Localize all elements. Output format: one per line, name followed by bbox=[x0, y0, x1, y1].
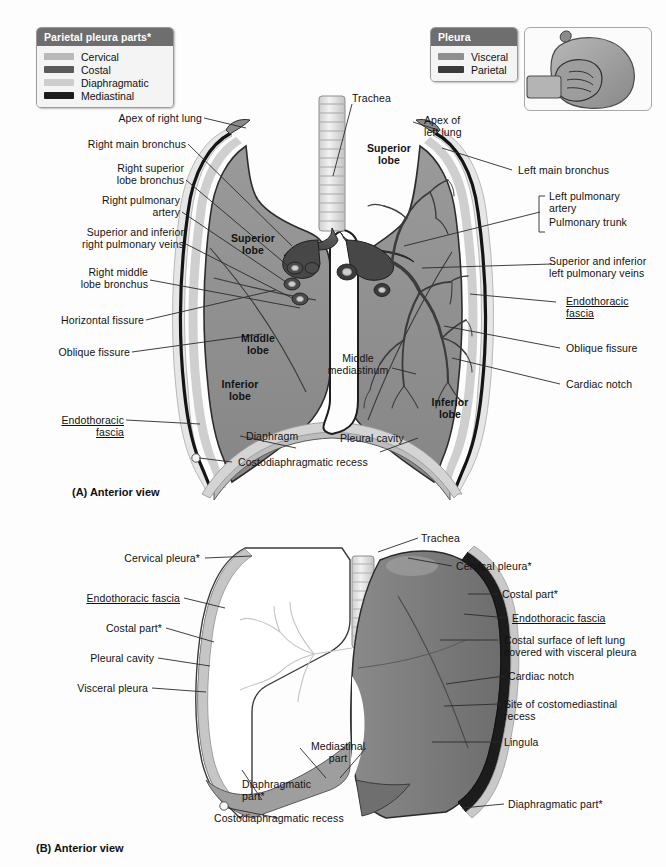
label-inferior-lobe-left-lung: Inferior lobe bbox=[418, 396, 482, 420]
label-lingula: Lingula bbox=[504, 736, 539, 748]
legend-swatch-visceral bbox=[438, 53, 464, 60]
inset-fist-balloon bbox=[524, 27, 652, 111]
label-diaphragmatic-part-right: Diaphragmatic part* bbox=[508, 798, 603, 810]
figure-root: Parietal pleura parts* Cervical Costal D… bbox=[0, 0, 666, 867]
label-endothoracic-fascia-b-left: Endothoracic fascia bbox=[56, 592, 180, 604]
legend-item: Costal bbox=[44, 63, 166, 76]
label-horizontal-fissure: Horizontal fissure bbox=[34, 314, 144, 326]
fist-balloon-illustration bbox=[525, 28, 651, 110]
legend-item: Parietal bbox=[438, 63, 510, 76]
legend-label: Costal bbox=[81, 64, 111, 76]
legend-label: Visceral bbox=[471, 51, 508, 63]
legend-swatch-parietal bbox=[438, 66, 464, 73]
label-costal-surface-left-lung: Costal surface of left lung covered with… bbox=[504, 634, 664, 658]
label-costodiaphragmatic-recess: Costodiaphragmatic recess bbox=[238, 456, 368, 468]
label-left-pulmonary-veins: Superior and inferior left pulmonary vei… bbox=[549, 255, 665, 279]
label-inferior-lobe-right-lung: Inferior lobe bbox=[208, 378, 272, 402]
label-diaphragmatic-part-b: Diaphragmatic part* bbox=[242, 778, 328, 802]
label-right-pulmonary-artery: Right pulmonary artery bbox=[58, 194, 180, 218]
legend-swatch-mediastinal bbox=[44, 92, 74, 99]
label-cervical-pleura-left: Cervical pleura* bbox=[92, 552, 200, 564]
label-costal-part-left: Costal part* bbox=[82, 622, 162, 634]
label-pulmonary-trunk: Pulmonary trunk bbox=[549, 216, 659, 228]
legend-item: Mediastinal bbox=[44, 89, 166, 102]
legend-swatch-cervical bbox=[44, 53, 74, 60]
panel-b-caption: (B) Anterior view bbox=[36, 842, 124, 854]
label-endothoracic-fascia-b-right: Endothoracic fascia bbox=[512, 612, 606, 624]
label-cervical-pleura-right: Cervical pleura* bbox=[456, 560, 532, 572]
legend-item: Cervical bbox=[44, 50, 166, 63]
label-left-pulmonary-artery: Left pulmonary artery bbox=[549, 190, 657, 214]
label-apex-right-lung: Apex of right lung bbox=[86, 112, 202, 124]
label-trachea-b: Trachea bbox=[421, 532, 460, 544]
legend-label: Cervical bbox=[81, 51, 119, 63]
legend-label: Mediastinal bbox=[81, 90, 134, 102]
label-middle-lobe: Middle lobe bbox=[226, 332, 290, 356]
panel-a-caption: (A) Anterior view bbox=[72, 486, 160, 498]
label-costal-part-right: Costal part* bbox=[502, 588, 558, 600]
legend-swatch-diaphragmatic bbox=[44, 79, 74, 86]
legend-title: Parietal pleura parts* bbox=[37, 28, 173, 46]
legend-parietal-pleura-parts: Parietal pleura parts* Cervical Costal D… bbox=[36, 27, 174, 108]
label-endothoracic-fascia-right: Endothoracic fascia bbox=[566, 295, 662, 319]
label-pleural-cavity-b: Pleural cavity bbox=[70, 652, 154, 664]
legend-label: Diaphragmatic bbox=[81, 77, 149, 89]
label-right-middle-lobe-bronchus: Right middle lobe bronchus bbox=[32, 266, 148, 290]
legend-item: Visceral bbox=[438, 50, 510, 63]
label-pleural-cavity: Pleural cavity bbox=[340, 432, 404, 444]
label-right-main-bronchus: Right main bronchus bbox=[60, 138, 186, 150]
legend-title: Pleura bbox=[431, 28, 517, 46]
label-costodiaphragmatic-recess-b: Costodiaphragmatic recess bbox=[214, 812, 344, 824]
label-superior-lobe-right-lung: Superior lobe bbox=[216, 232, 290, 256]
label-right-superior-lobe-bronchus: Right superior lobe bronchus bbox=[60, 162, 184, 186]
label-oblique-fissure-left: Oblique fissure bbox=[38, 346, 130, 358]
legend-item: Diaphragmatic bbox=[44, 76, 166, 89]
legend-label: Parietal bbox=[471, 64, 507, 76]
label-superior-lobe-left-lung: Superior lobe bbox=[352, 142, 426, 166]
label-endothoracic-fascia-left: Endothoracic fascia bbox=[36, 414, 124, 438]
label-middle-mediastinum: Middle mediastinum bbox=[316, 352, 400, 376]
label-oblique-fissure-right: Oblique fissure bbox=[566, 342, 664, 354]
legend-pleura: Pleura Visceral Parietal bbox=[430, 27, 518, 82]
label-right-pulmonary-veins: Superior and inferior right pulmonary ve… bbox=[22, 226, 184, 250]
label-left-main-bronchus: Left main bronchus bbox=[518, 164, 648, 176]
label-apex-left-lung: Apex of left lung bbox=[424, 114, 524, 138]
label-diaphragm: Diaphragm bbox=[246, 430, 298, 442]
label-mediastinal-part: Mediastinal part bbox=[300, 740, 376, 764]
label-costomediastinal-recess: Site of costomediastinal recess bbox=[504, 698, 660, 722]
label-visceral-pleura-b: Visceral pleura bbox=[62, 682, 148, 694]
label-cardiac-notch-b: Cardiac notch bbox=[508, 670, 574, 682]
legend-swatch-costal bbox=[44, 66, 74, 73]
label-cardiac-notch: Cardiac notch bbox=[566, 378, 660, 390]
label-trachea: Trachea bbox=[352, 92, 391, 104]
